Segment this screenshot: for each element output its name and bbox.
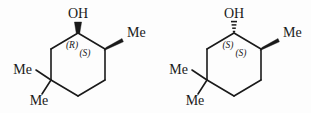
hydroxyl-label-right: OH xyxy=(224,6,244,21)
stereo-descriptor-c2-right: (S) xyxy=(235,48,246,59)
ring-bond-c1-c2 xyxy=(78,33,105,49)
structure-right-drawing: OH Me Me Me (S) (S) xyxy=(155,0,311,113)
ring-bond-c1-c2 xyxy=(234,33,261,49)
cyclohexane-ring-right xyxy=(207,33,261,96)
methyl-bond-bottom-plain xyxy=(198,80,207,94)
hydroxyl-hash-bond-right xyxy=(231,22,237,32)
structure-right: OH Me Me Me (S) (S) xyxy=(155,0,311,113)
ring-bond-c4-c5 xyxy=(207,80,234,96)
ring-bond-c3-c4 xyxy=(234,80,261,96)
chemical-structures-figure: OH Me Me Me (R) (S) xyxy=(0,0,311,113)
methyl-label-bottom-right: Me xyxy=(186,93,205,108)
ring-bond-c4-c5 xyxy=(51,80,78,96)
methyl-bond-bottom-plain xyxy=(42,80,51,94)
stereo-descriptor-c2-left: (S) xyxy=(79,48,90,59)
hydroxyl-label-left: OH xyxy=(68,6,88,21)
structure-left-drawing: OH Me Me Me (R) (S) xyxy=(0,0,155,113)
methyl-label-top-right-right: Me xyxy=(283,25,302,40)
structure-left: OH Me Me Me (R) (S) xyxy=(0,0,155,113)
methyl-label-left-right: Me xyxy=(169,62,188,77)
stereo-descriptor-c1-right: (S) xyxy=(222,40,233,51)
methyl-label-bottom-left: Me xyxy=(30,93,49,108)
methyl-label-top-right-left: Me xyxy=(127,25,146,40)
ring-bond-c3-c4 xyxy=(78,80,105,96)
methyl-bond-left-plain xyxy=(36,70,51,80)
hydroxyl-wedge-bond-left xyxy=(74,22,81,33)
methyl-wedge-bond-right xyxy=(260,39,279,51)
methyl-label-left-left: Me xyxy=(13,62,32,77)
methyl-wedge-bond-left xyxy=(104,39,123,51)
stereo-descriptor-c1-left: (R) xyxy=(66,40,78,51)
methyl-bond-left-plain xyxy=(192,70,207,80)
